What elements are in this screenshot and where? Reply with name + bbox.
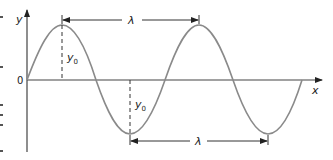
wavelength-bottom-label: λ	[194, 135, 202, 148]
x-axis-label: x	[311, 84, 319, 97]
wave-svg: y x 0 λ λ y0 y0	[0, 0, 333, 160]
y-axis-label: y	[15, 13, 23, 26]
amplitude-top-label: y0	[66, 51, 78, 66]
amplitude-bottom-label: y0	[134, 98, 146, 113]
wavelength-top-label: λ	[127, 14, 135, 27]
origin-label: 0	[17, 75, 23, 86]
